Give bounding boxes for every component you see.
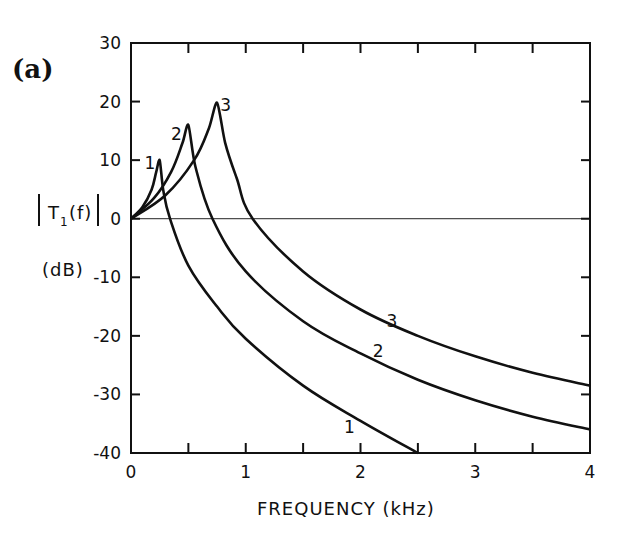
x-tick-label: 2 — [355, 462, 366, 482]
y-tick-label: 10 — [99, 150, 121, 170]
curve-2 — [131, 125, 590, 430]
chart-figure: (a) T 1 (f) (dB) 3020100-10-20-30-400123… — [0, 0, 626, 555]
x-tick-label: 0 — [126, 462, 137, 482]
chart-svg: (a) T 1 (f) (dB) 3020100-10-20-30-400123… — [0, 0, 626, 555]
y-axis-unit: (dB) — [42, 259, 84, 280]
x-tick-label: 4 — [585, 462, 596, 482]
y-axis-title-main: T — [47, 202, 60, 223]
y-axis-title: T 1 (f) (dB) — [39, 194, 98, 280]
curve-label-1: 1 — [145, 153, 156, 173]
panel-label: (a) — [12, 54, 53, 84]
x-tick-label: 1 — [240, 462, 251, 482]
plot-frame — [131, 43, 590, 453]
x-tick-label: 3 — [470, 462, 481, 482]
y-tick-label: 20 — [99, 92, 121, 112]
y-tick-label: 0 — [110, 209, 121, 229]
curve-label-3: 3 — [220, 95, 231, 115]
y-tick-label: -20 — [93, 326, 121, 346]
y-axis-title-arg: (f) — [69, 202, 92, 223]
x-axis-title: FREQUENCY (kHz) — [257, 498, 435, 519]
y-tick-label: -30 — [93, 384, 121, 404]
curve-label-2-tail: 2 — [373, 341, 384, 361]
y-tick-label: 30 — [99, 33, 121, 53]
y-tick-label: -40 — [93, 443, 121, 463]
curve-label-3-tail: 3 — [386, 311, 397, 331]
curve-1 — [131, 160, 418, 453]
curves: 112233 — [131, 95, 590, 454]
y-axis-title-subscript: 1 — [60, 215, 69, 229]
curve-3 — [131, 103, 590, 386]
y-tick-label: -10 — [93, 267, 121, 287]
curve-label-1-tail: 1 — [344, 417, 355, 437]
curve-label-2: 2 — [171, 124, 182, 144]
